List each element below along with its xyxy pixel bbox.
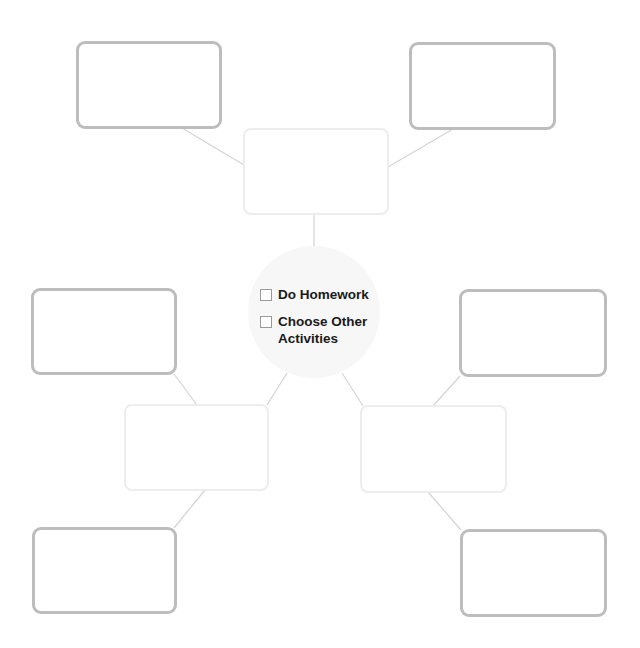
connector-right-lower [428,492,461,530]
option-choose-other-activities[interactable]: Choose Other Activities [260,313,373,347]
box-right-upper[interactable] [459,289,607,377]
checkbox-icon[interactable] [260,316,272,328]
box-right-lower[interactable] [460,529,607,617]
box-left-middle[interactable] [124,404,269,491]
checkbox-icon[interactable] [260,289,272,301]
central-hub-circle [248,246,380,378]
box-top-right[interactable] [409,42,556,130]
box-top-center[interactable] [243,128,389,215]
option-label: Do Homework [278,286,373,303]
connector-right-upper [433,376,460,406]
option-do-homework[interactable]: Do Homework [260,286,373,303]
connector-left-upper [174,374,197,405]
connector-hub-right-middle [342,373,363,406]
connector-hub-left-middle [267,373,287,405]
connector-left-lower [174,490,205,528]
box-right-middle[interactable] [360,405,507,493]
connector-top-right [388,129,453,167]
box-left-lower[interactable] [32,527,177,614]
box-left-upper[interactable] [31,288,177,375]
connector-top-left [182,128,244,165]
box-top-left[interactable] [76,41,222,129]
option-label: Choose Other Activities [278,313,373,347]
